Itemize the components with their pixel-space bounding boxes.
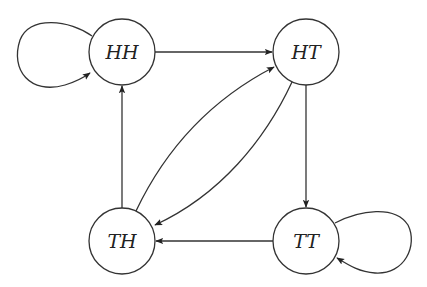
node-tt: TT	[273, 208, 339, 274]
node-tt-label: TT	[293, 230, 320, 252]
edge-tt-to-tt	[335, 212, 411, 273]
node-hh: HH	[89, 19, 155, 85]
node-ht: HT	[273, 19, 339, 85]
node-th: TH	[89, 208, 155, 274]
state-diagram: HH HT TH TT	[0, 0, 427, 287]
node-hh-label: HH	[104, 41, 139, 63]
node-th-label: TH	[107, 230, 137, 252]
node-ht-label: HT	[290, 41, 322, 63]
edge-ht-to-th	[155, 82, 292, 225]
edge-hh-to-hh	[17, 23, 92, 88]
edge-th-to-ht	[136, 67, 274, 211]
